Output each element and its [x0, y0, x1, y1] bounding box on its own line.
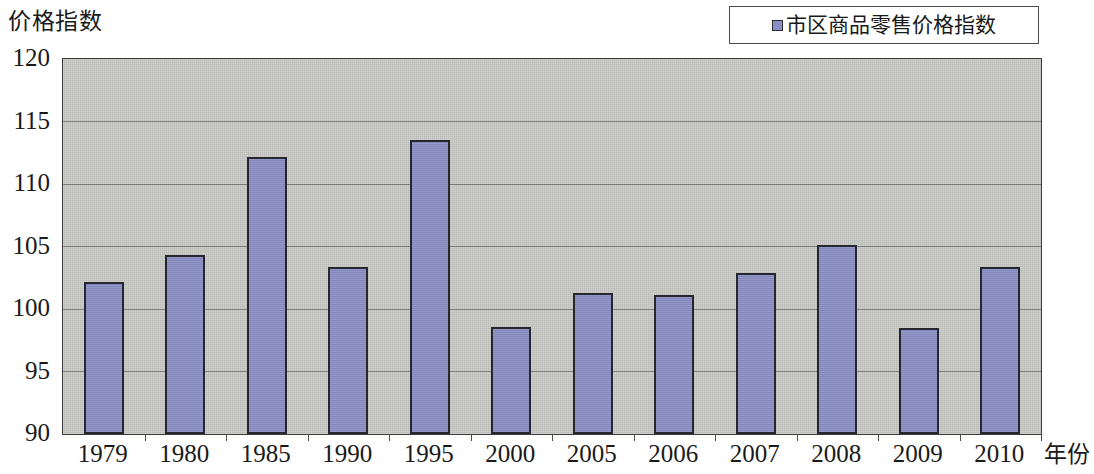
bar-1979: [84, 282, 124, 435]
x-axis-tick-label: 2006: [633, 440, 715, 468]
y-axis-tick-label: 105: [0, 233, 50, 258]
bar-2000: [491, 327, 531, 435]
x-axis-tick: [1041, 434, 1042, 441]
price-index-bar-chart: 价格指数 市区商品零售价格指数 1201151101051009590 1979…: [0, 0, 1094, 474]
legend-swatch-icon: [772, 20, 783, 31]
y-axis-tick-label: 90: [0, 420, 50, 445]
x-axis-tick-label: 2008: [796, 440, 878, 468]
x-axis-tick-label: 1995: [388, 440, 470, 468]
x-axis-tick-label: 2007: [714, 440, 796, 468]
y-axis-tick-label: 100: [0, 295, 50, 320]
y-axis-tick-label: 115: [0, 108, 50, 133]
bar-1980: [165, 255, 205, 434]
bar-2008: [817, 245, 857, 434]
bar-2006: [654, 295, 694, 434]
x-axis-title: 年份: [1044, 441, 1090, 469]
x-axis-tick-label: 2009: [877, 440, 959, 468]
x-axis-tick-label: 2005: [551, 440, 633, 468]
bar-1990: [328, 267, 368, 435]
bar-2007: [736, 273, 776, 434]
y-axis-title: 价格指数: [8, 8, 102, 36]
bar-1995: [410, 140, 450, 434]
x-axis-tick-label: 1979: [62, 440, 144, 468]
y-axis-tick-label: 120: [0, 45, 50, 70]
x-axis-tick-label: 2000: [470, 440, 552, 468]
bar-1985: [247, 157, 287, 435]
bar-2010: [980, 267, 1020, 435]
x-axis-tick-label: 1985: [225, 440, 307, 468]
x-axis-tick-label: 1990: [307, 440, 389, 468]
legend-entry-label: 市区商品零售价格指数: [786, 13, 996, 37]
y-axis-tick-label: 95: [0, 358, 50, 383]
plot-area: [62, 58, 1042, 435]
bar-2005: [573, 293, 613, 434]
x-axis-tick-label: 2010: [959, 440, 1041, 468]
chart-legend: 市区商品零售价格指数: [729, 6, 1039, 44]
bar-2009: [899, 328, 939, 434]
bar-series: [63, 59, 1041, 434]
y-axis-tick-label: 110: [0, 170, 50, 195]
x-axis-tick-label: 1980: [144, 440, 226, 468]
